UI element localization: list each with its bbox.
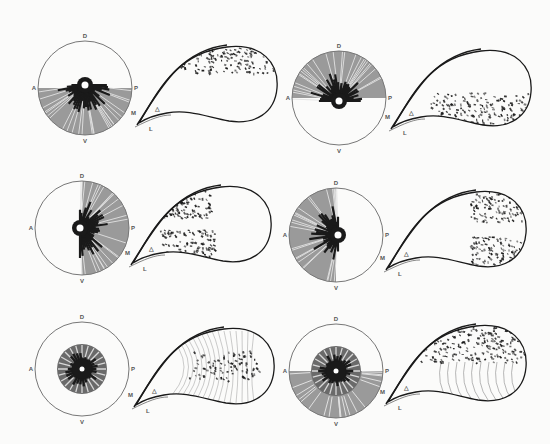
- axis-label-left: A: [283, 232, 288, 238]
- delta-icon: △: [408, 110, 414, 116]
- label-l: L: [143, 266, 147, 272]
- delta-icon: △: [151, 388, 157, 394]
- axis-label-right: P: [131, 225, 135, 231]
- delta-icon: △: [148, 246, 154, 252]
- axis-label-right: P: [385, 368, 389, 374]
- axis-label-top: D: [334, 316, 339, 322]
- delta-icon: △: [154, 106, 160, 112]
- delta-icon: △: [403, 385, 409, 391]
- panel-5: DVAP△ML: [29, 314, 274, 425]
- axis-label-bottom: V: [80, 419, 84, 425]
- label-l: L: [398, 405, 402, 411]
- axis-label-bottom: V: [83, 138, 87, 144]
- axis-label-bottom: V: [337, 148, 341, 154]
- sac-diagram: △ML: [380, 324, 527, 411]
- orientation-circle: DVAP: [32, 33, 138, 144]
- orientation-circle: DVAP: [29, 314, 135, 425]
- label-m: M: [385, 114, 390, 120]
- label-m: M: [125, 250, 130, 256]
- axis-label-top: D: [80, 173, 85, 179]
- axis-label-top: D: [80, 314, 85, 320]
- axis-label-left: A: [32, 85, 37, 91]
- orientation-circle: DVAP: [29, 173, 135, 284]
- label-m: M: [380, 389, 385, 395]
- panel-1: DVAP△ML: [32, 33, 278, 144]
- axis-label-right: P: [388, 95, 392, 101]
- panel-4: DVAP△ML: [283, 180, 528, 291]
- label-l: L: [403, 130, 407, 136]
- axis-label-bottom: V: [80, 278, 84, 284]
- label-l: L: [149, 126, 153, 132]
- axis-label-left: A: [286, 95, 291, 101]
- sac-diagram: △ML: [125, 185, 271, 272]
- figure-canvas: DVAP△MLDVAP△MLDVAP△MLDVAP△MLDVAP△MLDVAP△…: [0, 0, 550, 444]
- axis-label-left: A: [283, 368, 288, 374]
- axis-label-bottom: V: [334, 285, 338, 291]
- orientation-circle: DVAP: [283, 180, 389, 291]
- axis-label-left: A: [29, 366, 34, 372]
- axis-label-bottom: V: [334, 421, 338, 427]
- sac-diagram: △ML: [131, 45, 278, 132]
- delta-icon: △: [403, 251, 409, 257]
- label-l: L: [398, 271, 402, 277]
- label-l: L: [146, 408, 150, 414]
- axis-label-right: P: [134, 85, 138, 91]
- axis-label-top: D: [83, 33, 88, 39]
- panel-2: DVAP△ML: [286, 43, 533, 154]
- panel-3: DVAP△ML: [29, 173, 271, 284]
- orientation-circle: DVAP: [283, 316, 389, 427]
- axis-label-right: P: [385, 232, 389, 238]
- axis-label-top: D: [337, 43, 342, 49]
- label-m: M: [128, 392, 133, 398]
- label-m: M: [380, 255, 385, 261]
- axis-label-top: D: [334, 180, 339, 186]
- panel-6: DVAP△ML: [283, 316, 527, 427]
- sac-diagram: △ML: [128, 327, 274, 414]
- axis-label-left: A: [29, 225, 34, 231]
- sac-diagram: △ML: [380, 190, 528, 277]
- orientation-circle: DVAP: [286, 43, 392, 154]
- sac-diagram: △ML: [385, 49, 533, 136]
- label-m: M: [131, 110, 136, 116]
- axis-label-right: P: [131, 366, 135, 372]
